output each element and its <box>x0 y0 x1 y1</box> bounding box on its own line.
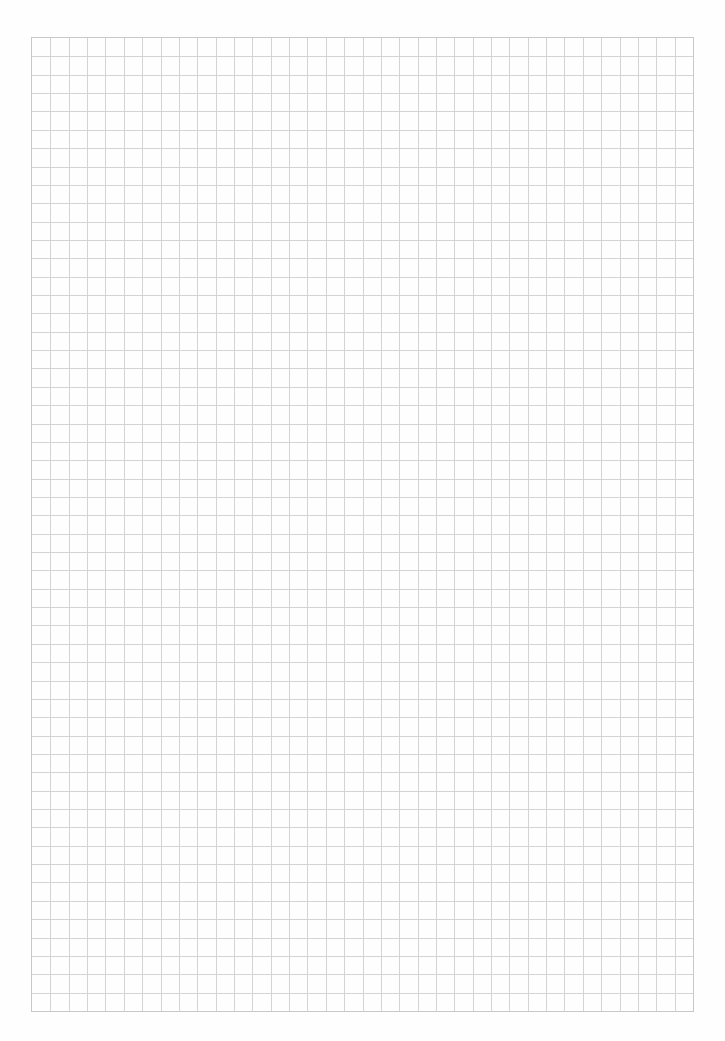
graph-paper-sheet <box>0 0 725 1041</box>
square-grid <box>31 37 694 1012</box>
grid-lines <box>32 38 693 1011</box>
